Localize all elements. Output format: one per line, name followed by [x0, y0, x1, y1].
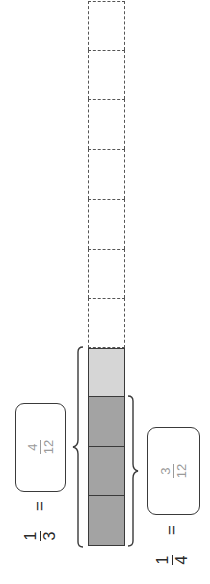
strip-cell-empty — [88, 199, 125, 249]
strip-cell-shaded-light — [88, 348, 125, 396]
left-fraction-denominator: 3 — [41, 532, 58, 541]
right-answer-fraction: 3 12 — [158, 451, 188, 491]
right-fraction-numerator: 1 — [155, 555, 172, 566]
right-answer-numerator: 3 — [159, 466, 173, 475]
strip-cell-empty — [88, 50, 125, 99]
right-fraction-denominator: 4 — [173, 556, 190, 565]
left-answer-numerator: 4 — [26, 442, 40, 451]
right-answer-denominator: 12 — [174, 464, 188, 478]
strip-cell-shaded-dark — [88, 396, 125, 446]
left-equals-sign: = — [30, 496, 50, 516]
strip-cell-empty — [88, 149, 125, 199]
left-brace-icon — [70, 346, 84, 548]
strip-cell-shaded-dark — [88, 495, 125, 546]
left-fraction-numerator: 1 — [23, 531, 40, 542]
left-fraction: 1 3 — [22, 518, 58, 554]
strip-cell-empty — [88, 298, 125, 348]
right-brace-icon — [127, 395, 141, 547]
strip-cell-empty — [88, 1, 125, 50]
right-equals-sign: = — [162, 520, 182, 540]
strip-cell-shaded-dark — [88, 446, 125, 495]
right-fraction: 1 4 — [154, 542, 190, 578]
strip-cell-empty — [88, 99, 125, 149]
left-answer-denominator: 12 — [41, 440, 55, 454]
left-answer-fraction: 4 12 — [25, 427, 55, 467]
strip-cell-empty — [88, 249, 125, 298]
